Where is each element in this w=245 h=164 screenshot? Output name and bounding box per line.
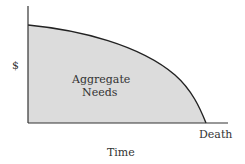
x-end-label: Death (199, 129, 232, 140)
x-axis-label: Time (107, 147, 135, 158)
area-label-line2: Needs (82, 87, 117, 98)
area-label-line1: Aggregate (72, 74, 130, 85)
y-axis-label: $ (12, 60, 19, 71)
